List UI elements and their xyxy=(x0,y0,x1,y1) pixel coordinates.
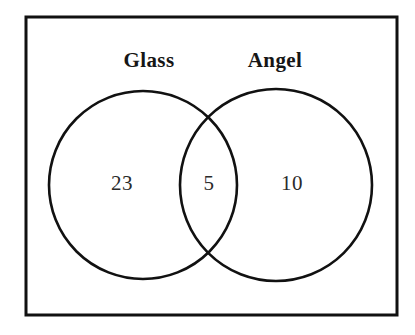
universal-set-frame xyxy=(26,17,397,315)
set-label-angel: Angel xyxy=(248,48,303,73)
region-count-glass-only: 23 xyxy=(111,171,133,196)
region-count-angel-only: 10 xyxy=(281,171,303,196)
venn-canvas xyxy=(0,0,415,335)
region-count-intersection: 5 xyxy=(204,171,215,196)
set-label-glass: Glass xyxy=(123,48,174,73)
venn-diagram: Glass Angel 23 5 10 xyxy=(0,0,415,335)
